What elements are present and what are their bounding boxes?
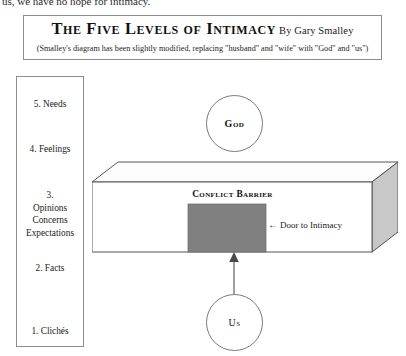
level-item-2-facts: 2. Facts bbox=[17, 262, 83, 275]
box-top-face bbox=[92, 162, 398, 182]
conflict-barrier-door bbox=[188, 204, 266, 252]
page-running-text: us, we have no hope for intimacy. bbox=[2, 0, 262, 7]
title-subtitle-note: (Smalley's diagram has been slightly mod… bbox=[30, 43, 375, 54]
level-3-number: 3. bbox=[17, 189, 83, 202]
level-3-line-opinions: Opinions bbox=[17, 202, 83, 215]
god-label: God bbox=[225, 118, 245, 129]
level-3-line-expectations: Expectations bbox=[17, 227, 83, 240]
us-label: Us bbox=[229, 317, 241, 328]
conflict-barrier-box bbox=[92, 160, 398, 260]
author-credit: By Gary Smalley bbox=[276, 25, 353, 36]
conflict-barrier-label: Conflict Barrier bbox=[150, 189, 315, 199]
us-circle-node: Us bbox=[206, 294, 263, 351]
levels-panel: 5. Needs 4. Feelings 3. Opinions Concern… bbox=[16, 76, 84, 347]
page-title: The Five Levels of Intimacy bbox=[52, 19, 277, 38]
us-to-door-arrow bbox=[224, 252, 244, 296]
title-panel: The Five Levels of IntimacyBy Gary Small… bbox=[23, 15, 382, 60]
level-item-4-feelings: 4. Feelings bbox=[17, 143, 83, 156]
level-item-3-opinions-concerns-expectations: 3. Opinions Concerns Expectations bbox=[17, 189, 83, 239]
title-line: The Five Levels of IntimacyBy Gary Small… bbox=[24, 19, 381, 39]
door-to-intimacy-text: Door to Intimacy bbox=[280, 220, 342, 230]
level-item-1-cliches: 1. Clichés bbox=[17, 325, 83, 338]
level-3-line-concerns: Concerns bbox=[17, 214, 83, 227]
left-arrow-icon: ← bbox=[268, 219, 280, 230]
level-item-5-needs: 5. Needs bbox=[17, 98, 83, 111]
door-to-intimacy-label: ←Door to Intimacy bbox=[268, 219, 342, 230]
god-circle-node: God bbox=[206, 95, 263, 152]
arrow-head bbox=[229, 252, 239, 262]
